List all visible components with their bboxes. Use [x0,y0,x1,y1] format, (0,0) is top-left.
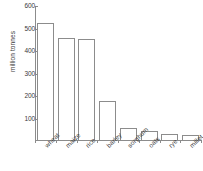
bar-chart: million tonnes 100200300400500600 wheatm… [0,0,203,171]
bar [78,39,95,141]
x-tick-mark [35,140,36,143]
y-tick-label-wrap: 400 [0,47,35,48]
y-tick-label-wrap: 100 [0,115,35,116]
bars-group [35,6,201,141]
y-tick-label: 500 [13,25,35,32]
y-tick-label: 400 [13,47,35,54]
bar [37,23,54,141]
y-tick-label-wrap: 600 [0,2,35,3]
y-tick-label-wrap: 300 [0,70,35,71]
y-tick-label-wrap: 500 [0,25,35,26]
y-tick-label: 100 [13,115,35,122]
plot-area [35,6,201,141]
bar [58,38,75,141]
y-tick-label: 200 [13,92,35,99]
y-tick-label: 300 [13,70,35,77]
x-tick-mark [180,140,181,143]
x-tick-mark [97,140,98,143]
y-tick-label: 600 [13,2,35,9]
y-tick-label-wrap: 200 [0,92,35,93]
